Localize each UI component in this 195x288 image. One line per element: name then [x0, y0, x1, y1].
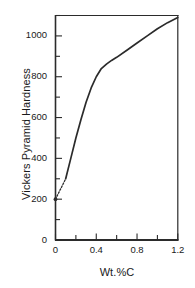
x-axis-title: Wt.%C: [55, 266, 179, 278]
x-tick-label: 1.2: [163, 244, 193, 255]
x-axis-ticks: [56, 234, 178, 241]
series-hardness-extrapolated: [56, 179, 66, 199]
plot-frame: [55, 15, 179, 241]
y-tick-label: 0: [13, 234, 47, 245]
data-point-markers: [54, 197, 58, 201]
origin-marker: [54, 197, 58, 201]
y-axis-ticks: [56, 16, 63, 241]
data-series-group: [54, 18, 178, 202]
chart-figure: 02004006008001000 00.40.81.2 Vickers Pyr…: [0, 0, 195, 288]
y-tick-label: 1000: [13, 29, 47, 40]
x-tick-label: 0.8: [122, 244, 152, 255]
series-hardness-measured: [66, 18, 178, 179]
x-tick-label: 0: [41, 244, 71, 255]
y-axis-title: Vickers Pyramid Hardness: [20, 59, 32, 209]
x-tick-label: 0.4: [81, 244, 111, 255]
